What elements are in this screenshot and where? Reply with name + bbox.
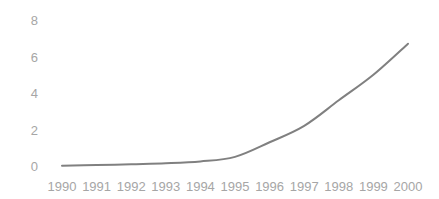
- x-tick-label: 1996: [255, 180, 284, 193]
- y-tick-label: 8: [22, 14, 38, 27]
- y-tick-label: 6: [22, 50, 38, 63]
- chart-plot-area: [0, 0, 439, 199]
- x-tick-label: 1999: [359, 180, 388, 193]
- x-tick-label: 1990: [48, 180, 77, 193]
- x-tick-label: 1992: [117, 180, 146, 193]
- series-line-0: [62, 44, 408, 166]
- y-tick-label: 4: [22, 87, 38, 100]
- y-tick-label: 2: [22, 123, 38, 136]
- x-tick-label: 1993: [151, 180, 180, 193]
- x-tick-label: 1995: [221, 180, 250, 193]
- x-tick-label: 1998: [324, 180, 353, 193]
- x-tick-label: 1991: [82, 180, 111, 193]
- line-chart: 02468 1990199119921993199419951996199719…: [0, 0, 439, 199]
- x-tick-label: 1997: [290, 180, 319, 193]
- x-tick-label: 2000: [394, 180, 423, 193]
- y-tick-label: 0: [22, 160, 38, 173]
- x-tick-label: 1994: [186, 180, 215, 193]
